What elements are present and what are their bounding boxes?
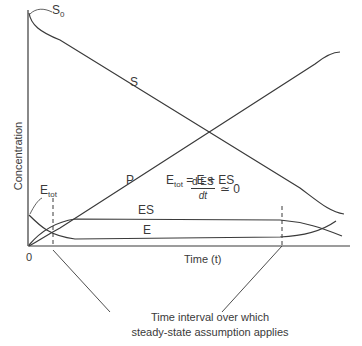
caption-pointer-right [222,246,282,312]
caption-pointer-left [53,250,110,312]
origin-label: 0 [26,252,32,263]
etot-leader [30,198,42,214]
fraction-denominator: dt [191,189,215,201]
s0-leader [30,9,52,14]
es-complex-curve [29,219,342,245]
fraction-numerator: d ES [191,176,215,189]
p-label: P [126,174,134,186]
es-label: ES [138,204,154,216]
steady-state-fraction: d ES dt [191,176,215,201]
steady-state-rhs: ≃ 0 [220,182,240,196]
x-axis-label: Time (t) [184,254,221,265]
s0-label: S0 [52,4,64,19]
s-label: S [130,76,138,88]
caption-line-1: Time interval over which [90,310,330,325]
etot-label: Etot [40,184,57,199]
caption-line-2: steady-state assumption applies [90,325,330,340]
y-axis-label: Concentration [12,116,24,196]
product-curve [29,52,340,246]
steady-state-caption: Time interval over which steady-state as… [90,310,330,340]
kinetics-plot [0,0,362,346]
e-label: E [143,224,151,236]
